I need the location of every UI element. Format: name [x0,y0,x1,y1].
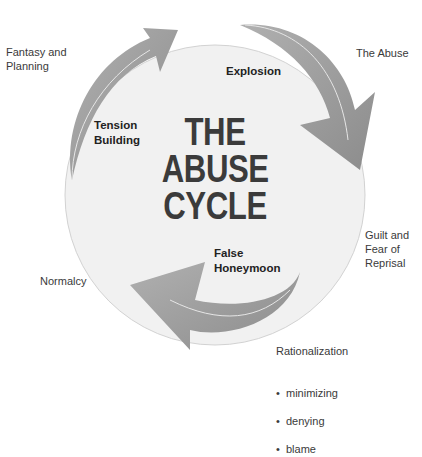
rationalization-item: blame [276,442,348,456]
title-line-2: ABUSE [162,151,269,188]
rationalization-heading: Rationalization [276,344,348,358]
rationalization-list: minimizing denying blame [276,372,348,457]
label-normalcy: Normalcy [40,274,86,288]
stage-tension-building: Tension Building [94,118,140,148]
label-guilt-and-fear: Guilt and Fear of Reprisal [365,228,409,270]
title-line-3: CYCLE [162,188,269,225]
label-rationalization: Rationalization minimizing denying blame [276,330,348,457]
title-line-1: THE [162,114,269,151]
diagram-title: THE ABUSE CYCLE [162,114,269,225]
label-fantasy-and-planning: Fantasy and Planning [6,45,67,73]
stage-explosion: Explosion [226,64,281,79]
rationalization-item: minimizing [276,386,348,400]
stage-false-honeymoon: False Honeymoon [214,246,280,276]
label-the-abuse: The Abuse [356,46,409,60]
rationalization-item: denying [276,414,348,428]
